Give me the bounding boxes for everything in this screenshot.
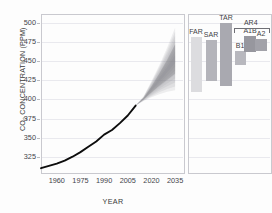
observed-co2-line — [41, 106, 136, 169]
bar-label-tar: TAR — [219, 14, 232, 21]
bar-label-sar: SAR — [204, 31, 218, 38]
ar4-group-bracket — [234, 28, 271, 33]
co2-concentration-chart: CO2 CONCENTRATION (PPM) YEAR 32535037540… — [0, 0, 272, 213]
bar-b1 — [235, 51, 246, 65]
bar-sar — [206, 40, 217, 81]
bar-label-b1: B1 — [236, 42, 245, 49]
bar-far — [191, 37, 202, 92]
bar-a2 — [255, 39, 267, 50]
bar-tar — [220, 23, 232, 86]
bar-label-far: FAR — [189, 28, 203, 35]
ar4-group-label: AR4 — [244, 19, 258, 26]
